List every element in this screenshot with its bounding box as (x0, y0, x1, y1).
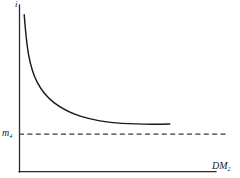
x-axis-title: DM2 (212, 161, 231, 172)
y-axis-title: i (15, 0, 18, 9)
money-demand-curve (24, 15, 170, 124)
y-tick-label-subscript: 4 (9, 132, 12, 139)
x-axis-title-subscript: 2 (228, 165, 231, 172)
plot-canvas (0, 0, 240, 178)
figure-container: i DM2 m4 (0, 0, 240, 178)
x-axis-title-base: DM (212, 160, 228, 171)
y-tick-label-m: m4 (2, 128, 12, 139)
